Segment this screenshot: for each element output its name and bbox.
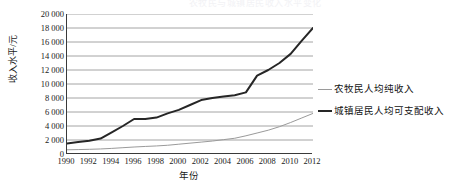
series-lines — [67, 28, 313, 150]
x-tick-label: 2008 — [259, 156, 276, 166]
income-line-chart: 农牧民与城镇居民收入水平变化 收入水平/元 02 0004 0006 0008 … — [0, 0, 461, 192]
x-axis-tick-labels: 1990199219941996199820002002200420062008… — [60, 156, 322, 168]
plot-svg — [67, 14, 313, 154]
y-tick-label: 12 000 — [20, 66, 64, 75]
x-tick-label: 2010 — [281, 156, 298, 166]
x-tick-label: 2012 — [304, 156, 321, 166]
legend-item[interactable]: 农牧民人均纯收入 — [318, 78, 461, 100]
x-tick-label: 1996 — [125, 156, 142, 166]
y-tick-label: 8 000 — [20, 94, 64, 103]
x-axis-title: 年份 — [66, 170, 312, 182]
x-tick-label: 2004 — [214, 156, 231, 166]
x-tick-label: 2006 — [236, 156, 253, 166]
y-tick-label: 4 000 — [20, 122, 64, 131]
legend-line-icon — [318, 110, 332, 112]
x-tick-label: 1994 — [102, 156, 119, 166]
y-tick-label: 2 000 — [20, 136, 64, 145]
y-axis-tick-labels: 02 0004 0006 0008 00010 00012 00014 0001… — [20, 14, 64, 154]
x-tick-label: 1998 — [147, 156, 164, 166]
x-tick-label: 1990 — [58, 156, 75, 166]
y-tick-label: 14 000 — [20, 52, 64, 61]
legend-item[interactable]: 城镇居民人均可支配收入 — [318, 100, 461, 122]
x-tick-label: 2002 — [192, 156, 209, 166]
chart-title-faint: 农牧民与城镇居民收入水平变化 — [105, 0, 405, 8]
series-line — [67, 113, 313, 149]
x-tick-label: 1992 — [80, 156, 97, 166]
plot-area — [66, 14, 312, 154]
legend-label: 农牧民人均纯收入 — [334, 83, 414, 95]
gridlines — [67, 14, 313, 140]
legend-line-icon — [318, 89, 332, 90]
y-tick-label: 18 000 — [20, 24, 64, 33]
y-tick-label: 20 000 — [20, 10, 64, 19]
chart-legend: 农牧民人均纯收入城镇居民人均可支配收入 — [318, 78, 461, 122]
y-tick-label: 16 000 — [20, 38, 64, 47]
y-tick-label: 6 000 — [20, 108, 64, 117]
y-tick-label: 10 000 — [20, 80, 64, 89]
legend-label: 城镇居民人均可支配收入 — [334, 105, 444, 117]
y-axis-title: 收入水平/元 — [8, 11, 18, 107]
x-tick-label: 2000 — [169, 156, 186, 166]
